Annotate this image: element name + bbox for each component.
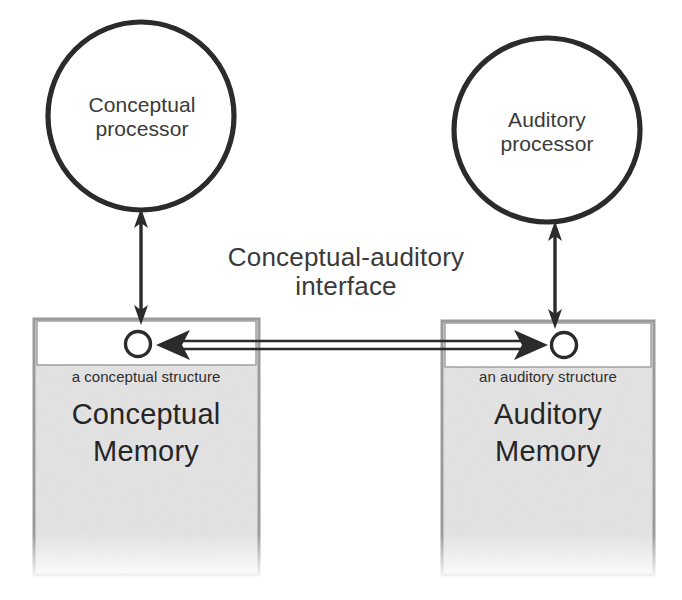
auditory-structure-node [552,333,577,358]
conceptual-auditory-interface-label: Conceptual-auditory interface [176,243,516,301]
auditory-structure-label: an auditory structure [442,369,654,386]
auditory-memory-title: Auditory Memory [442,396,654,470]
conceptual-memory-title: Conceptual Memory [33,396,259,470]
conceptual-processor-label: Conceptual processor [48,93,236,140]
auditory-processor-memory-arrow [548,221,562,329]
diagram-canvas: Conceptual processor Auditory processor … [0,0,682,600]
conceptual-structure-label: a conceptual structure [33,369,259,386]
auditory-processor-label: Auditory processor [453,108,641,155]
conceptual-structure-node [126,332,151,357]
conceptual-processor-memory-arrow [134,208,148,325]
